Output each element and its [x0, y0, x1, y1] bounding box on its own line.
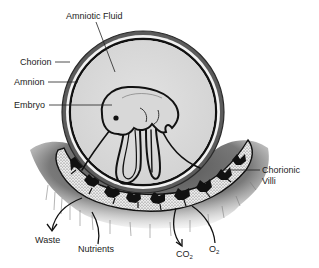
label-amnion: Amnion — [14, 77, 45, 87]
label-o2-base: O — [209, 244, 216, 254]
label-amniotic-fluid: Amniotic Fluid — [66, 11, 123, 21]
diagram-artwork — [0, 0, 319, 268]
label-chorionic: Chorionic — [262, 165, 300, 175]
label-embryo: Embryo — [14, 100, 45, 110]
label-villi: Villi — [262, 176, 276, 186]
label-waste: Waste — [35, 235, 60, 245]
label-co2-subscript: 2 — [190, 254, 193, 260]
label-o2: O2 — [209, 244, 219, 257]
label-co2-base: CO — [176, 249, 190, 259]
label-nutrients: Nutrients — [78, 244, 114, 254]
embryo-diagram: Amniotic Fluid Chorion Amnion Embryo Cho… — [0, 0, 319, 268]
label-co2: CO2 — [176, 249, 193, 262]
label-chorion: Chorion — [20, 57, 52, 67]
label-o2-subscript: 2 — [216, 249, 219, 255]
